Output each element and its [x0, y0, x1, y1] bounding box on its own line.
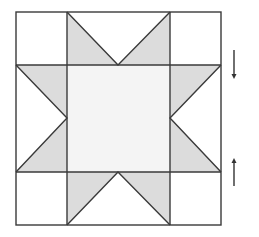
quilt-block-diagram [0, 0, 259, 237]
center-square [67, 65, 170, 172]
